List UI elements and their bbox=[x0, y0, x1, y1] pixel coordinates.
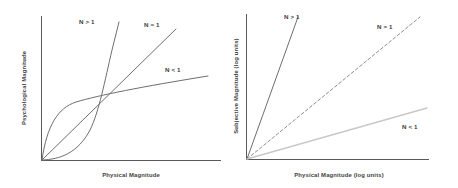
y-axis-title: Subjective Magnitude (log units) bbox=[233, 38, 239, 133]
curve-label-compressive: N < 1 bbox=[402, 123, 418, 130]
curve-label-expansive: N > 1 bbox=[284, 13, 300, 20]
figure-container: N > 1 N = 1 N < 1 Physical Magnitude Psy… bbox=[0, 0, 458, 188]
log-coordinates-panel: N > 1 N = 1 N < 1 Physical Magnitude (lo… bbox=[229, 0, 458, 188]
curve-label-linear: N = 1 bbox=[377, 23, 393, 30]
x-axis-title: Physical Magnitude (log units) bbox=[294, 172, 384, 178]
curve-label-compressive: N < 1 bbox=[165, 66, 181, 73]
linear-coordinates-panel: N > 1 N = 1 N < 1 Physical Magnitude Psy… bbox=[0, 0, 229, 188]
line-compressive bbox=[247, 108, 427, 159]
curve-linear bbox=[42, 29, 176, 160]
x-axis-title: Physical Magnitude bbox=[102, 172, 160, 178]
curve-label-expansive: N > 1 bbox=[79, 18, 95, 25]
curve-label-linear: N = 1 bbox=[144, 21, 160, 28]
y-axis-title: Psychological Magnitude bbox=[21, 50, 27, 125]
curve-compressive bbox=[42, 76, 208, 160]
curve-expansive bbox=[42, 22, 119, 160]
